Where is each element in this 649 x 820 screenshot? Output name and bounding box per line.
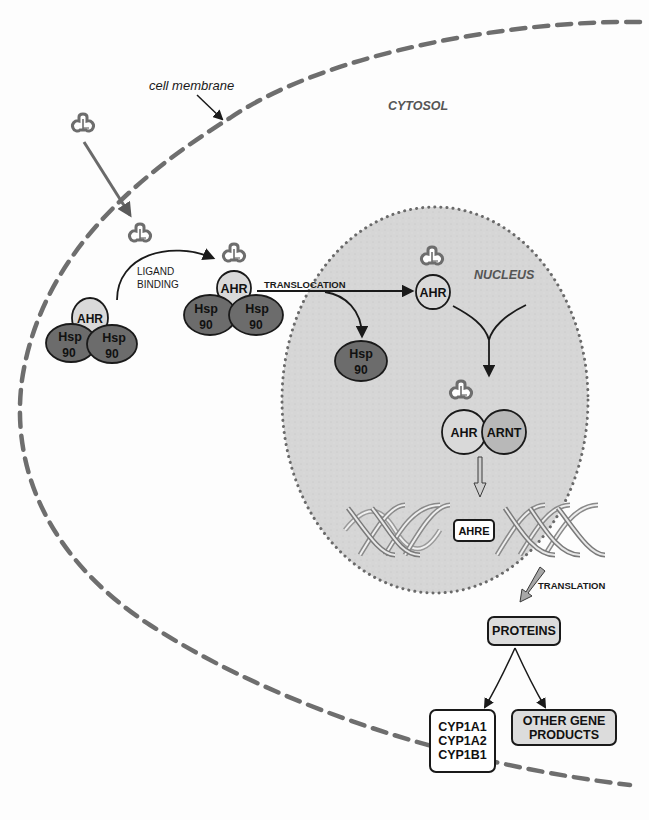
nucleus-label: NUCLEUS <box>474 268 535 282</box>
svg-text:AHR: AHR <box>419 286 446 300</box>
svg-text:90: 90 <box>62 346 76 360</box>
ligand-icon-extracellular <box>72 113 94 136</box>
svg-text:Hsp: Hsp <box>194 302 218 316</box>
membrane-pointer-arrow <box>197 95 222 119</box>
diagram-canvas: cell membrane CYTOSOL NUCLEUS LIGAND BIN… <box>0 0 649 820</box>
released-hsp90: Hsp 90 <box>335 341 387 381</box>
cell-membrane-label: cell membrane <box>149 78 234 93</box>
svg-text:Hsp: Hsp <box>349 347 373 361</box>
arrow-to-other-products <box>515 648 545 707</box>
ligand-entry-arrow <box>84 142 130 215</box>
ligand-binding-label-1: LIGAND <box>137 266 174 277</box>
ligand-icon-bound <box>223 243 245 266</box>
svg-text:AHRE: AHRE <box>458 525 489 537</box>
svg-text:Hsp: Hsp <box>245 302 269 316</box>
ahre-element: AHRE <box>454 520 494 541</box>
inactive-ahr-hsp90-complex: AHR Hsp 90 Hsp 90 <box>46 298 137 363</box>
translation-label: TRANSLATION <box>538 580 606 591</box>
other-products-line1: OTHER GENE <box>523 714 606 728</box>
cytosol-label: CYTOSOL <box>388 99 448 113</box>
translocation-label: TRANSLOCATION <box>264 279 346 290</box>
svg-text:AHR: AHR <box>77 312 103 326</box>
arrow-to-cyp <box>485 648 515 707</box>
ligand-icon-cytosolic <box>129 223 151 246</box>
svg-text:90: 90 <box>199 318 213 332</box>
cyp-item: CYP1A1 <box>438 720 487 734</box>
svg-text:90: 90 <box>249 318 263 332</box>
cyp-genes-box: CYP1A1 CYP1A2 CYP1B1 <box>429 709 496 773</box>
svg-text:Hsp: Hsp <box>102 331 126 345</box>
other-gene-products-box: OTHER GENE PRODUCTS <box>511 709 617 746</box>
svg-text:90: 90 <box>105 347 119 361</box>
proteins-box: PROTEINS <box>487 616 561 646</box>
proteins-label: PROTEINS <box>492 624 556 638</box>
svg-text:AHR: AHR <box>450 426 477 440</box>
ligand-binding-label-2: BINDING <box>137 279 179 290</box>
cyp-item: CYP1B1 <box>438 748 487 762</box>
svg-text:ARNT: ARNT <box>487 426 522 440</box>
cyp-item: CYP1A2 <box>438 734 487 748</box>
ahr-pathway-diagram: cell membrane CYTOSOL NUCLEUS LIGAND BIN… <box>0 0 649 820</box>
other-products-line2: PRODUCTS <box>529 728 599 742</box>
svg-text:Hsp: Hsp <box>58 330 82 344</box>
svg-text:AHR: AHR <box>220 282 247 296</box>
svg-text:90: 90 <box>354 363 368 377</box>
